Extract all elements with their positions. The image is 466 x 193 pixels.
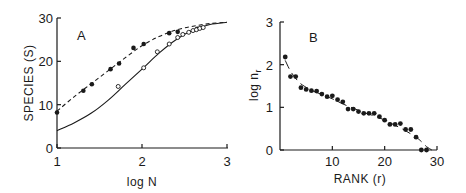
filled-data-point	[131, 46, 136, 51]
panel-b-label: B	[309, 30, 318, 45]
filled-data-point	[167, 31, 172, 36]
filled-data-point	[419, 148, 424, 153]
filled-data-point	[314, 89, 319, 94]
filled-data-point	[81, 89, 86, 94]
filled-data-point	[293, 74, 298, 79]
panel-b-curves	[285, 60, 432, 150]
filled-data-point	[377, 114, 382, 119]
filled-data-point	[325, 94, 330, 99]
open-data-point	[155, 50, 159, 54]
filled-data-point	[288, 74, 293, 79]
open-data-point	[142, 66, 146, 70]
open-data-point	[116, 84, 120, 88]
filled-data-point	[372, 111, 377, 116]
panel-b-y-axis-title: log nr	[247, 69, 263, 101]
y-tick-label: 20	[39, 54, 53, 69]
filled-data-point	[414, 135, 419, 140]
filled-data-point	[398, 121, 403, 126]
x-tick-label: 30	[430, 154, 444, 169]
filled-data-point	[351, 107, 356, 112]
panel-b-x-axis-title: RANK (r)	[334, 172, 387, 186]
fitted-curve	[285, 60, 432, 150]
open-data-point	[167, 42, 171, 46]
filled-data-point	[141, 42, 146, 47]
y-tick-label: 0	[46, 141, 53, 156]
panel-b-points	[283, 55, 429, 153]
x-tick-label: 2	[138, 154, 145, 169]
figure-svg: 0102030 123 A log N SPECIES (S) 0123 102…	[0, 0, 466, 193]
filled-data-point	[304, 87, 309, 92]
x-tick-label: 1	[53, 154, 60, 169]
filled-data-point	[330, 93, 335, 98]
open-data-point	[176, 36, 180, 40]
filled-data-point	[90, 82, 95, 87]
filled-data-point	[335, 97, 340, 102]
panel-a-y-axis-title: SPECIES (S)	[22, 45, 36, 122]
filled-data-point	[356, 109, 361, 114]
filled-data-point	[424, 148, 429, 153]
filled-data-point	[367, 111, 372, 116]
x-tick-label: 10	[325, 154, 339, 169]
x-tick-label: 20	[377, 154, 391, 169]
filled-data-point	[55, 110, 60, 115]
panel-a-y-ticks: 0102030	[39, 11, 61, 156]
panel-a-label: A	[77, 28, 86, 43]
filled-data-point	[108, 67, 113, 72]
y-tick-label: 10	[39, 98, 53, 113]
panel-a-x-axis-title: log N	[127, 175, 158, 189]
filled-data-point	[283, 55, 288, 60]
open-data-point	[201, 26, 205, 30]
open-data-point	[181, 32, 185, 36]
open-data-point	[187, 30, 191, 34]
filled-data-point	[319, 92, 324, 97]
filled-data-point	[309, 88, 314, 93]
filled-data-point	[340, 99, 345, 104]
filled-data-point	[393, 122, 398, 127]
filled-data-point	[361, 111, 366, 116]
y-tick-label: 0	[266, 143, 273, 158]
panel-b-chart: 0123 102030 B RANK (r) log nr	[247, 15, 444, 186]
y-tick-label: 3	[266, 15, 273, 30]
filled-data-point	[299, 85, 304, 90]
panel-a-chart: 0102030 123 A log N SPECIES (S)	[22, 11, 231, 189]
filled-data-point	[117, 61, 122, 66]
filled-data-point	[382, 118, 387, 123]
panel-b-y-ticks: 0123	[266, 15, 284, 158]
filled-data-point	[408, 127, 413, 132]
y-tick-label: 1	[266, 100, 273, 115]
filled-data-point	[175, 30, 180, 35]
filled-data-point	[388, 122, 393, 127]
x-tick-label: 3	[223, 154, 230, 169]
filled-data-point	[403, 127, 408, 132]
figure: 0102030 123 A log N SPECIES (S) 0123 102…	[0, 0, 466, 193]
y-tick-label: 2	[266, 58, 273, 73]
y-tick-label: 30	[39, 11, 53, 26]
filled-data-point	[346, 107, 351, 112]
